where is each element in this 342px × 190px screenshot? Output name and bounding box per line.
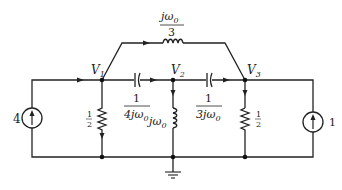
svg-text:4: 4 xyxy=(13,112,21,126)
svg-text:1: 1 xyxy=(87,110,92,119)
current-source-right: 1 xyxy=(303,112,336,132)
svg-text:1: 1 xyxy=(256,110,261,119)
svg-text:2: 2 xyxy=(87,120,92,129)
top-inductor-num: jω0 xyxy=(158,10,178,25)
node-bottom-1-dot xyxy=(100,155,105,160)
svg-text:jω0: jω0 xyxy=(146,115,166,130)
svg-text:1: 1 xyxy=(329,116,336,129)
circuit-diagram: jω0 3 1 4jω0 1 3jω0 1 2 jω0 xyxy=(0,0,342,190)
svg-text:1: 1 xyxy=(133,92,140,105)
top-inductor-coil xyxy=(163,39,183,43)
svg-text:1: 1 xyxy=(205,92,212,105)
ground-icon xyxy=(165,172,181,178)
top-inductor-den: 3 xyxy=(168,26,175,39)
node-v1-label: V1 xyxy=(91,63,105,79)
node-v3-dot xyxy=(243,78,248,83)
node-bottom-2-dot xyxy=(171,155,176,160)
resistor-v1: 1 2 xyxy=(86,80,106,157)
resistor-v3: 1 2 xyxy=(241,80,261,157)
node-v2-label: V2 xyxy=(171,63,185,79)
svg-text:2: 2 xyxy=(256,120,261,129)
svg-text:3jω0: 3jω0 xyxy=(196,108,220,123)
node-v3-label: V3 xyxy=(247,63,261,79)
svg-text:4jω0: 4jω0 xyxy=(123,108,148,123)
node-bottom-3-dot xyxy=(243,155,248,160)
current-source-left: 4 xyxy=(13,108,42,128)
node-v2-dot xyxy=(171,78,176,83)
inductor-coil xyxy=(173,108,177,128)
